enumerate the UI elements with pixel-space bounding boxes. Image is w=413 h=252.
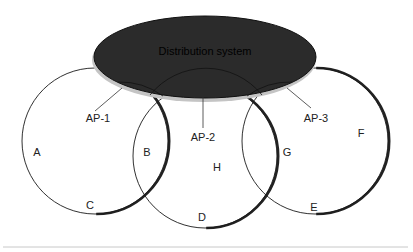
distribution-system-label: Distribution system (159, 45, 252, 57)
region-label-h: H (213, 161, 221, 173)
label-ap1: AP-1 (86, 112, 110, 124)
region-label-c: C (86, 199, 94, 211)
region-label-g: G (283, 146, 292, 158)
wireless-coverage-diagram: Distribution system AP-1 AP-2 AP-3 A B C… (0, 0, 413, 252)
label-ap2: AP-2 (191, 131, 215, 143)
coverage-circle-ap2 (133, 84, 277, 228)
leader-line-ap3 (287, 88, 311, 108)
region-label-d: D (198, 211, 206, 223)
distribution-system-ellipse (94, 16, 316, 98)
region-label-e: E (310, 201, 317, 213)
leader-line-ap1 (95, 88, 122, 111)
region-label-a: A (33, 146, 41, 158)
distribution-system: Distribution system (92, 16, 316, 102)
label-ap3: AP-3 (304, 112, 328, 124)
region-label-f: F (358, 127, 365, 139)
region-label-b: B (143, 146, 150, 158)
